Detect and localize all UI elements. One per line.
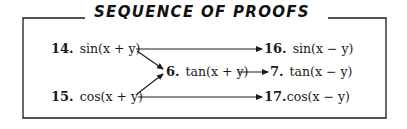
proof-15: 15.cos(x + y)	[51, 89, 143, 105]
proof-expression: tan(x + y)	[186, 64, 249, 79]
proof-16: 16.sin(x − y)	[264, 41, 353, 57]
proof-expression: cos(x + y)	[80, 89, 143, 104]
proof-number: 7.	[270, 64, 284, 79]
proof-number: 16.	[264, 41, 287, 56]
proof-17: 17.cos(x − y)	[264, 89, 350, 105]
proof-6: 6.tan(x + y)	[166, 64, 248, 80]
proof-expression: cos(x − y)	[287, 89, 350, 104]
proof-14: 14.sin(x + y)	[51, 41, 140, 57]
proof-expression: tan(x − y)	[290, 64, 353, 79]
proof-expression: sin(x + y)	[80, 41, 141, 56]
arrow-14-to-6	[137, 51, 163, 69]
proof-7: 7.tan(x − y)	[270, 64, 352, 80]
proof-expression: sin(x − y)	[293, 41, 354, 56]
diagram-title: SEQUENCE OF PROOFS	[94, 3, 310, 21]
proof-number: 14.	[51, 41, 74, 56]
proof-number: 6.	[166, 64, 180, 79]
proof-number: 15.	[51, 89, 74, 104]
proof-number: 17.	[264, 89, 287, 104]
